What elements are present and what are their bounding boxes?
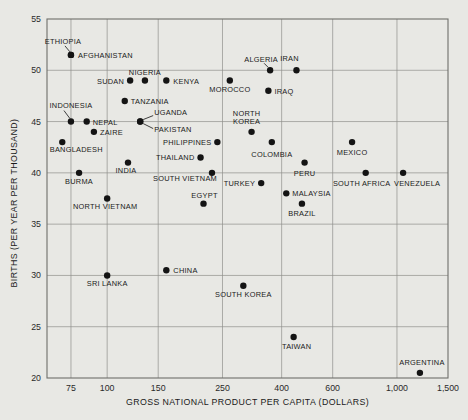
data-point-china [163, 267, 169, 273]
chart-canvas: 751001502504006001,0001,5005550454035302… [0, 0, 468, 420]
data-point-thailand [197, 154, 203, 160]
data-point-philippines [214, 139, 220, 145]
data-point-iraq [265, 88, 271, 94]
country-label-mexico: MEXICO [337, 148, 368, 157]
country-label-egypt: EGYPT [191, 191, 218, 200]
country-label-zaire: ZAIRE [100, 128, 123, 137]
country-label-sri-lanka: SRI LANKA [87, 279, 128, 288]
y-tick-label: 50 [31, 65, 41, 75]
country-label-tanzania: TANZANIA [131, 97, 169, 106]
data-point-morocco [227, 77, 233, 83]
y-axis-title: BIRTHS (PER YEAR PER THOUSAND) [9, 119, 19, 288]
x-tick-label: 1,500 [437, 383, 459, 393]
data-point-south-korea [240, 282, 246, 288]
data-point-turkey [258, 180, 264, 186]
country-label-indonesia: INDONESIA [50, 101, 93, 110]
data-point-taiwan [290, 334, 296, 340]
data-point-south-africa [362, 170, 368, 176]
country-label-bangladesh: BANGLADESH [50, 145, 103, 154]
x-tick-label: 250 [215, 383, 230, 393]
country-label-afghanistan: AFGHANISTAN [78, 51, 133, 60]
country-label-algeria: ALGERIA [244, 55, 278, 64]
country-label-colombia: COLOMBIA [251, 150, 292, 159]
data-point-brazil [299, 200, 305, 206]
country-label-kenya: KENYA [173, 77, 199, 86]
label-connector-ethiopia [65, 46, 70, 52]
country-label-nigeria: NIGERIA [129, 68, 161, 77]
country-label-malaysia: MALAYSIA [292, 189, 330, 198]
x-tick-label: 100 [100, 383, 115, 393]
label-connector-pakistan [143, 124, 153, 129]
y-tick-label: 20 [31, 373, 41, 383]
country-label-south-vietnam: SOUTH VIETNAM [153, 174, 217, 183]
x-tick-label: 75 [66, 383, 76, 393]
country-label-iran: IRAN [280, 54, 299, 63]
country-label-iraq: IRAQ [274, 87, 293, 96]
country-label-philippines: PHILIPPINES [163, 138, 211, 147]
data-point-egypt [200, 200, 206, 206]
country-label-ethiopia: ETHIOPIA [45, 37, 82, 46]
country-label-south-africa: SOUTH AFRICA [333, 179, 391, 188]
data-point-zaire [91, 129, 97, 135]
data-point-peru [301, 159, 307, 165]
scatter-plot-figure: 751001502504006001,0001,5005550454035302… [0, 0, 468, 420]
country-label-peru: PERU [294, 169, 316, 178]
country-label-turkey: TURKEY [224, 179, 255, 188]
data-point-tanzania [122, 98, 128, 104]
country-label-line: KOREA [233, 117, 260, 126]
country-label-uganda: UGANDA [154, 108, 187, 117]
country-label-morocco: MOROCCO [209, 85, 250, 94]
data-point-argentina [417, 370, 423, 376]
y-tick-label: 35 [31, 219, 41, 229]
country-label-india: INDIA [116, 166, 137, 175]
country-label-nepal: NEPAL [93, 118, 118, 127]
country-label-north-korea: NORTHKOREA [233, 109, 260, 126]
x-tick-label: 600 [325, 383, 340, 393]
data-point-nepal [84, 118, 90, 124]
data-point-venezuela [400, 170, 406, 176]
y-tick-label: 55 [31, 14, 41, 24]
y-tick-label: 25 [31, 322, 41, 332]
country-label-china: CHINA [173, 266, 197, 275]
data-point-nigeria [142, 77, 148, 83]
data-point-indonesia [68, 118, 74, 124]
country-label-burma: BURMA [65, 177, 93, 186]
data-point-afghanistan [68, 52, 74, 58]
country-label-south-korea: SOUTH KOREA [215, 290, 272, 299]
country-label-brazil: BRAZIL [288, 209, 315, 218]
x-tick-label: 400 [274, 383, 289, 393]
label-connector-indonesia [64, 111, 70, 119]
x-tick-label: 1,000 [386, 383, 408, 393]
country-label-thailand: THAILAND [156, 153, 195, 162]
data-point-colombia [269, 139, 275, 145]
x-axis-title: GROSS NATIONAL PRODUCT PER CAPITA (DOLLA… [47, 397, 448, 407]
data-point-algeria [267, 67, 273, 73]
data-point-sudan [127, 77, 133, 83]
country-label-pakistan: PAKISTAN [154, 125, 191, 134]
y-tick-label: 30 [31, 270, 41, 280]
y-tick-label: 45 [31, 117, 41, 127]
data-point-mexico [349, 139, 355, 145]
data-point-malaysia [283, 190, 289, 196]
country-label-argentina: ARGENTINA [399, 358, 444, 367]
country-label-taiwan: TAIWAN [282, 342, 311, 351]
data-point-north-korea [248, 129, 254, 135]
country-label-north-vietnam: NORTH VIETNAM [73, 202, 137, 211]
data-point-pakistan [137, 118, 143, 124]
data-point-burma [76, 170, 82, 176]
country-label-sudan: SUDAN [97, 77, 124, 86]
x-tick-label: 150 [151, 383, 166, 393]
data-point-sri-lanka [104, 272, 110, 278]
country-label-venezuela: VENEZUELA [394, 179, 440, 188]
y-tick-label: 40 [31, 168, 41, 178]
data-point-iran [293, 67, 299, 73]
label-connector-uganda [143, 116, 153, 120]
data-point-kenya [163, 77, 169, 83]
